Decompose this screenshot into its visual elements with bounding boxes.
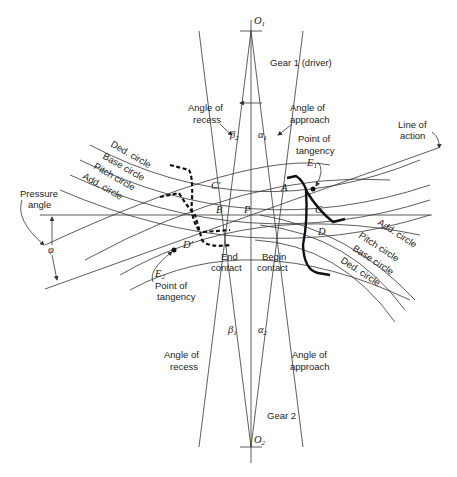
begin-contact-label-2: contact [257, 262, 288, 273]
top-approach-label-2: approach [290, 114, 330, 125]
tangency-top-label-2: tangency [296, 145, 335, 156]
point-d-label: D [317, 226, 326, 237]
phi-label: φ [48, 244, 54, 255]
tangency-bottom-label-2: tangency [157, 291, 196, 302]
tangency-top-label: Point of [298, 133, 331, 144]
pitch-point-label: P [243, 204, 251, 215]
e1-label: E1 [306, 157, 317, 170]
beta1-label: β1 [227, 324, 237, 337]
gear2-label: Gear 2 [267, 410, 296, 421]
arrow-icon [52, 255, 57, 280]
center-o2-label: O2 [254, 434, 266, 447]
end-contact-label: End [221, 251, 238, 262]
pressure-angle-label: Pressure [20, 188, 58, 199]
center-lines [199, 20, 303, 463]
point-c-prime-label: C′ [211, 180, 221, 191]
gear-action-diagram: O1 O2 Gear 1 (driver) Gear 2 Angle of re… [0, 0, 457, 477]
point-a-label: A [280, 182, 288, 193]
alpha1-label: α1 [258, 129, 267, 142]
line-of-action-label: Line of [398, 119, 427, 130]
point-b-label: B [216, 204, 223, 215]
bottom-approach-label-2: approach [290, 361, 330, 372]
end-contact-label-2: contact [211, 262, 242, 273]
tangency-bottom-label: Point of [155, 280, 188, 291]
point-e1 [311, 187, 316, 192]
line-of-action-label-2: action [400, 130, 425, 141]
top-recess-label-2: recess [193, 114, 221, 125]
top-approach-label: Angle of [290, 102, 325, 113]
gear1-label: Gear 1 (driver) [270, 57, 332, 68]
bottom-approach-label: Angle of [292, 349, 327, 360]
point-c-label: C [315, 204, 323, 215]
arrow-icon [432, 132, 439, 148]
bottom-recess-label-2: recess [170, 361, 198, 372]
point-d-prime-label: D′ [182, 239, 194, 250]
beta2-label: β2 [229, 129, 239, 142]
bottom-recess-label: Angle of [164, 349, 199, 360]
begin-contact-label: Begin [262, 251, 286, 262]
top-recess-label: Angle of [188, 102, 223, 113]
center-o1-label: O1 [254, 15, 265, 28]
point-e2 [172, 248, 177, 253]
pressure-angle-label-2: angle [28, 199, 51, 210]
